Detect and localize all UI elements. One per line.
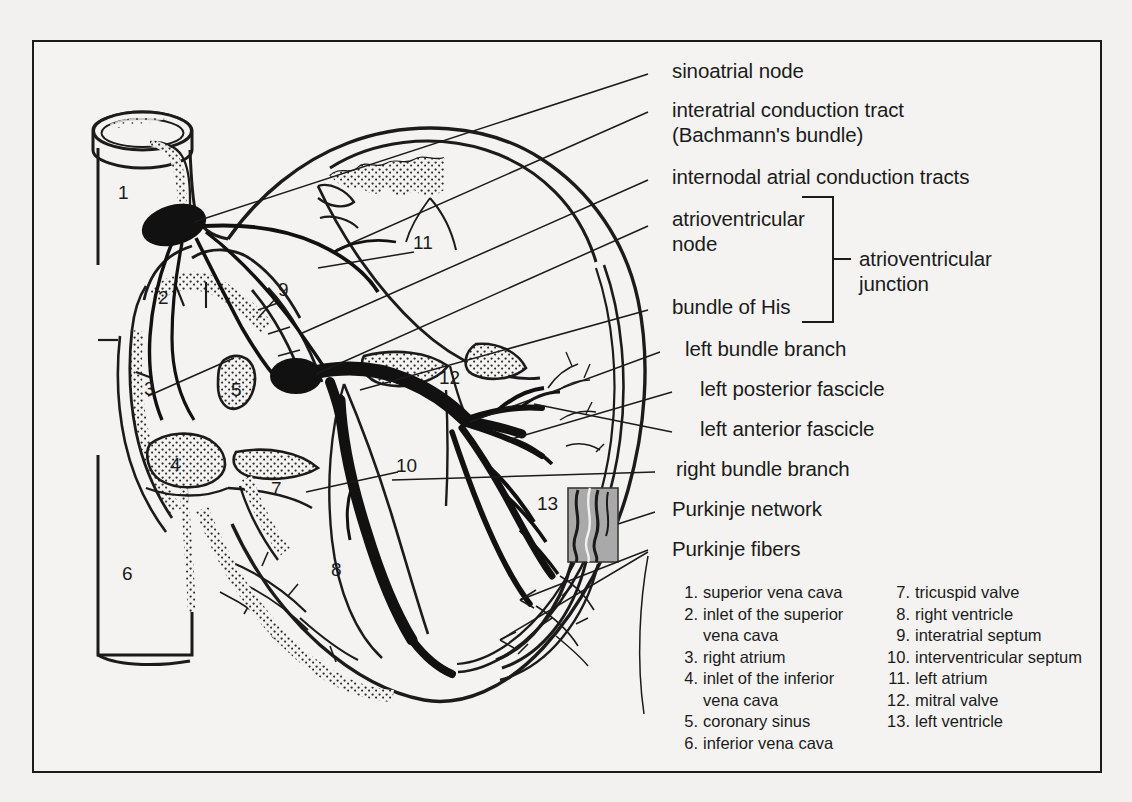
- diagram-marker-3: 3: [144, 378, 155, 400]
- diagram-marker-8: 8: [331, 559, 342, 581]
- legend-number: 3.: [676, 647, 698, 669]
- legend-item: 10. interventricular septum: [880, 647, 1110, 669]
- callout-av-node-line1: atrioventricular: [672, 206, 805, 231]
- legend-item: 4. inlet of the inferior: [676, 668, 906, 690]
- legend-number: 13.: [880, 711, 910, 733]
- legend-left-column: 1. superior vena cava 2. inlet of the su…: [676, 582, 906, 754]
- callout-av-junction-line2: junction: [859, 271, 929, 296]
- diagram-marker-10: 10: [396, 455, 417, 477]
- callout-left-anterior-fascicle: left anterior fascicle: [700, 416, 874, 441]
- callout-bundle-of-his: bundle of His: [672, 294, 790, 319]
- diagram-marker-2: 2: [158, 287, 169, 309]
- callout-interatrial-tract-line1: interatrial conduction tract: [672, 97, 904, 122]
- legend-label: left ventricle: [915, 711, 1110, 733]
- legend-item: 7. tricuspid valve: [880, 582, 1110, 604]
- callout-av-junction-line1: atrioventricular: [859, 246, 992, 271]
- legend-label: superior vena cava: [703, 582, 906, 604]
- callout-left-posterior-fascicle: left posterior fascicle: [700, 376, 885, 401]
- legend-label: interatrial septum: [915, 625, 1110, 647]
- legend-number: 10.: [880, 647, 910, 669]
- callout-right-bundle-branch: right bundle branch: [676, 456, 850, 481]
- diagram-marker-4: 4: [170, 454, 181, 476]
- legend-item: 12. mitral valve: [880, 690, 1110, 712]
- callout-purkinje-fibers: Purkinje fibers: [672, 536, 800, 561]
- legend-label: left atrium: [915, 668, 1110, 690]
- legend-label: right ventricle: [915, 604, 1110, 626]
- legend-number: [676, 690, 698, 712]
- diagram-marker-9: 9: [278, 279, 289, 301]
- legend-number: 1.: [676, 582, 698, 604]
- legend-label: inlet of the superior: [703, 604, 906, 626]
- callout-sinoatrial-node: sinoatrial node: [672, 58, 804, 83]
- legend-number: 11.: [880, 668, 910, 690]
- callout-av-node-line2: node: [672, 231, 717, 256]
- legend-label: mitral valve: [915, 690, 1110, 712]
- diagram-marker-1: 1: [118, 182, 129, 204]
- callout-internodal-tracts: internodal atrial conduction tracts: [672, 164, 969, 189]
- legend-label: right atrium: [703, 647, 906, 669]
- legend-item-continuation: vena cava: [676, 625, 906, 647]
- legend-item: 5. coronary sinus: [676, 711, 906, 733]
- legend-number: 5.: [676, 711, 698, 733]
- legend-label: vena cava: [703, 625, 906, 647]
- legend-number: 8.: [880, 604, 910, 626]
- callout-left-bundle-branch: left bundle branch: [685, 336, 846, 361]
- figure-root: 1 2 3 4 5 6 7 8 9 10 11 12 13 sinoatrial…: [0, 0, 1132, 802]
- legend-label: interventricular septum: [915, 647, 1110, 669]
- legend-item: 3. right atrium: [676, 647, 906, 669]
- callout-purkinje-network: Purkinje network: [672, 496, 822, 521]
- legend-label: tricuspid valve: [915, 582, 1110, 604]
- diagram-marker-13: 13: [537, 493, 558, 515]
- diagram-marker-5: 5: [231, 379, 242, 401]
- diagram-marker-7: 7: [271, 478, 282, 500]
- legend-label: vena cava: [703, 690, 906, 712]
- legend-item: 1. superior vena cava: [676, 582, 906, 604]
- callout-interatrial-tract-line2: (Bachmann's bundle): [672, 122, 863, 147]
- diagram-marker-6: 6: [122, 563, 133, 585]
- legend-label: inlet of the inferior: [703, 668, 906, 690]
- legend-item: 8. right ventricle: [880, 604, 1110, 626]
- legend-item: 13. left ventricle: [880, 711, 1110, 733]
- legend-number: 6.: [676, 733, 698, 755]
- legend-item: 6. inferior vena cava: [676, 733, 906, 755]
- legend-label: inferior vena cava: [703, 733, 906, 755]
- legend-label: coronary sinus: [703, 711, 906, 733]
- diagram-marker-11: 11: [413, 232, 433, 254]
- legend-number: 12.: [880, 690, 910, 712]
- legend-item: 11. left atrium: [880, 668, 1110, 690]
- legend-item: 9. interatrial septum: [880, 625, 1110, 647]
- legend-item: 2. inlet of the superior: [676, 604, 906, 626]
- legend-right-column: 7. tricuspid valve 8. right ventricle 9.…: [880, 582, 1110, 733]
- legend-number: 4.: [676, 668, 698, 690]
- diagram-marker-12: 12: [439, 367, 460, 389]
- legend-number: 7.: [880, 582, 910, 604]
- legend-number: 9.: [880, 625, 910, 647]
- legend-item-continuation: vena cava: [676, 690, 906, 712]
- legend-number: 2.: [676, 604, 698, 626]
- legend-number: [676, 625, 698, 647]
